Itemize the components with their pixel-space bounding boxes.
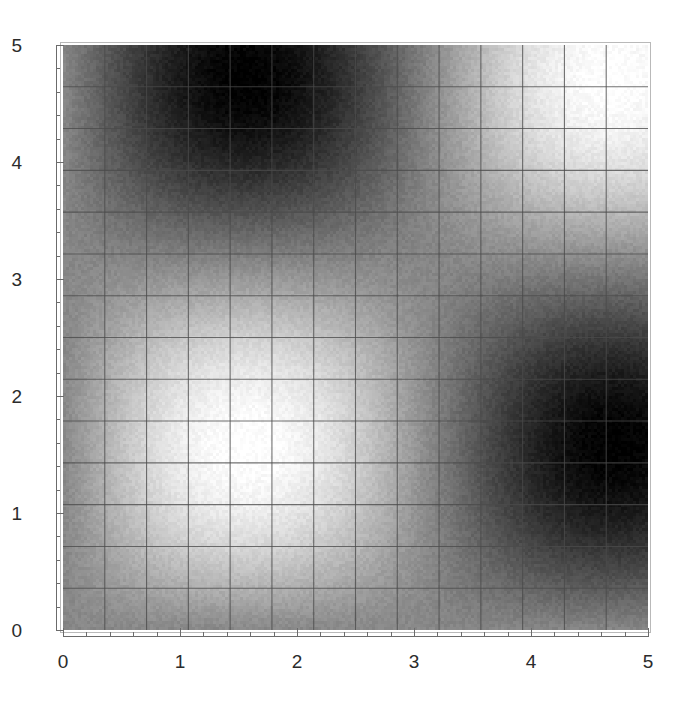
y-axis-tick-label: 2 xyxy=(11,387,22,406)
y-axis-tick-label: 3 xyxy=(11,270,22,289)
y-axis-minor-tick xyxy=(56,115,60,116)
x-axis-minor-tick xyxy=(484,632,485,636)
x-axis-minor-tick xyxy=(133,632,134,636)
x-axis-minor-tick xyxy=(367,632,368,636)
x-axis-minor-tick xyxy=(508,632,509,636)
y-axis-minor-tick xyxy=(56,373,60,374)
y-axis-minor-tick xyxy=(56,326,60,327)
density-raster xyxy=(63,45,648,630)
x-axis-minor-tick xyxy=(274,632,275,636)
y-axis-minor-tick xyxy=(56,302,60,303)
y-axis-tick-label: 0 xyxy=(11,621,22,640)
x-axis-tick-label: 0 xyxy=(58,652,69,671)
x-axis-minor-tick xyxy=(110,632,111,636)
x-axis-tick-label: 2 xyxy=(292,652,303,671)
y-axis-minor-tick xyxy=(56,419,60,420)
y-axis-tick-label: 5 xyxy=(11,36,22,55)
x-axis-minor-tick xyxy=(344,632,345,636)
y-axis-line xyxy=(56,45,57,631)
y-axis-minor-tick xyxy=(56,68,60,69)
x-axis-minor-tick xyxy=(320,632,321,636)
x-axis-tick-label: 4 xyxy=(526,652,537,671)
x-axis-line xyxy=(63,636,649,637)
y-axis-minor-tick xyxy=(56,185,60,186)
y-axis-minor-tick xyxy=(56,583,60,584)
x-axis-major-tick xyxy=(648,628,649,636)
y-axis-major-tick xyxy=(56,162,64,163)
y-axis-tick-label: 1 xyxy=(11,504,22,523)
x-axis-minor-tick xyxy=(437,632,438,636)
y-axis-minor-tick xyxy=(56,256,60,257)
y-axis-minor-tick xyxy=(56,349,60,350)
y-axis-major-tick xyxy=(56,45,64,46)
x-axis-minor-tick xyxy=(86,632,87,636)
y-axis-minor-tick xyxy=(56,607,60,608)
x-axis-major-tick xyxy=(531,628,532,636)
x-axis-minor-tick xyxy=(227,632,228,636)
x-axis-minor-tick xyxy=(554,632,555,636)
y-axis-minor-tick xyxy=(56,466,60,467)
x-axis-tick-label: 1 xyxy=(175,652,186,671)
x-axis-major-tick xyxy=(297,628,298,636)
y-axis-minor-tick xyxy=(56,536,60,537)
y-axis-minor-tick xyxy=(56,232,60,233)
y-axis-minor-tick xyxy=(56,490,60,491)
y-axis-minor-tick xyxy=(56,92,60,93)
y-axis-major-tick xyxy=(56,279,64,280)
y-axis-major-tick xyxy=(56,396,64,397)
x-axis-minor-tick xyxy=(578,632,579,636)
y-axis-minor-tick xyxy=(56,560,60,561)
y-axis-major-tick xyxy=(56,513,64,514)
x-axis-minor-tick xyxy=(391,632,392,636)
x-axis-tick-label: 5 xyxy=(643,652,654,671)
y-axis-minor-tick xyxy=(56,139,60,140)
y-axis-minor-tick xyxy=(56,209,60,210)
x-axis-minor-tick xyxy=(250,632,251,636)
density-plot-figure: 012345 012345 xyxy=(0,0,688,712)
x-axis-minor-tick xyxy=(461,632,462,636)
plot-area xyxy=(63,45,648,630)
x-axis-major-tick xyxy=(180,628,181,636)
x-axis-minor-tick xyxy=(601,632,602,636)
x-axis-minor-tick xyxy=(203,632,204,636)
x-axis-minor-tick xyxy=(157,632,158,636)
y-axis-major-tick xyxy=(56,630,64,631)
y-axis-tick-label: 4 xyxy=(11,153,22,172)
x-axis-minor-tick xyxy=(625,632,626,636)
y-axis-minor-tick xyxy=(56,443,60,444)
x-axis-major-tick xyxy=(414,628,415,636)
x-axis-tick-label: 3 xyxy=(409,652,420,671)
